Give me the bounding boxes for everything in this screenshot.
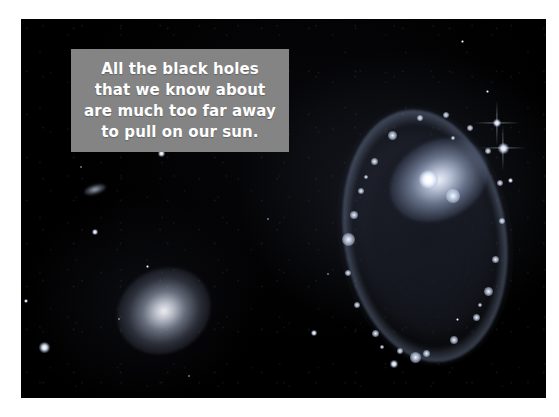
star <box>311 330 317 336</box>
star <box>39 342 50 353</box>
star <box>486 90 489 93</box>
ring-knot <box>467 125 473 131</box>
star <box>390 360 398 368</box>
ring-knot <box>372 330 379 337</box>
star <box>493 119 501 127</box>
star <box>188 375 190 377</box>
ring-knot <box>497 180 503 186</box>
ring-knot <box>423 350 430 357</box>
astronomy-photograph: All the black holes that we know about a… <box>21 19 546 398</box>
star <box>92 229 98 235</box>
caption-text: All the black holes that we know about a… <box>84 59 276 143</box>
star <box>267 218 269 220</box>
caption-box: All the black holes that we know about a… <box>71 49 289 152</box>
ring-knot <box>451 136 455 140</box>
star <box>508 178 513 183</box>
ring-knot <box>450 336 458 344</box>
ring-knot <box>358 188 364 194</box>
ring-knot <box>473 314 480 321</box>
ring-knot <box>380 345 384 349</box>
star <box>24 299 28 303</box>
star <box>80 166 82 168</box>
ring-knot <box>350 211 358 219</box>
ring-knot <box>484 287 493 296</box>
ring-knot <box>478 303 482 307</box>
companion-knot <box>446 189 460 203</box>
ring-knot <box>485 148 491 154</box>
image-canvas: All the black holes that we know about a… <box>0 0 559 417</box>
ring-knot <box>410 352 421 363</box>
ring-knot <box>443 112 449 118</box>
star <box>327 273 329 275</box>
ring-knot <box>499 218 505 224</box>
ring-knot <box>388 131 397 140</box>
ring-knot <box>364 175 368 179</box>
ring-knot <box>417 115 423 121</box>
star <box>461 40 464 43</box>
ring-knot <box>342 233 355 246</box>
ring-galaxy <box>330 99 520 374</box>
star <box>118 318 120 320</box>
star <box>498 143 509 154</box>
ring-knot <box>354 302 360 308</box>
ring-knot <box>371 158 378 165</box>
ring-galaxy-nucleus <box>419 170 438 189</box>
ring-knot <box>397 348 403 354</box>
star <box>146 265 149 268</box>
ring-knot <box>345 270 351 276</box>
star <box>456 318 459 321</box>
ring-knot <box>492 256 499 263</box>
